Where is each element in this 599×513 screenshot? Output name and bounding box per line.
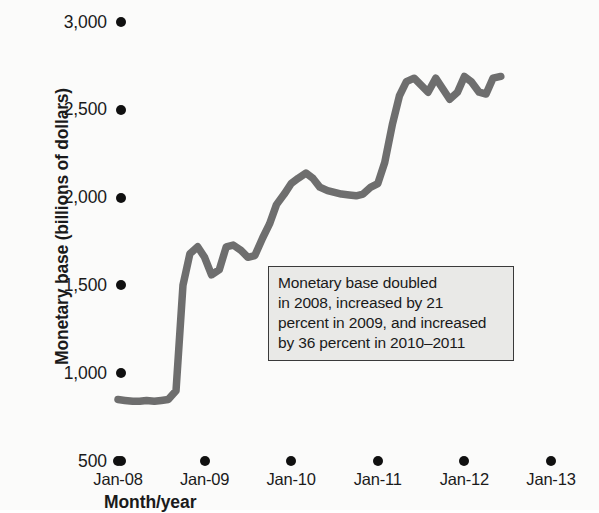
annotation-line: Monetary base doubled bbox=[278, 273, 505, 293]
x-tick-dot-Jan-10 bbox=[286, 456, 296, 466]
annotation-line: by 36 percent in 2010–2011 bbox=[278, 333, 505, 353]
x-tick-label-Jan-10: Jan-10 bbox=[267, 470, 316, 489]
x-tick-dot-Jan-13 bbox=[546, 456, 556, 466]
x-tick-dot-Jan-08 bbox=[113, 456, 123, 466]
x-tick-label-Jan-11: Jan-11 bbox=[354, 470, 402, 489]
x-tick-dot-Jan-09 bbox=[200, 456, 210, 466]
annotation-line: percent in 2009, and increased bbox=[278, 313, 505, 333]
x-tick-label-Jan-13: Jan-13 bbox=[526, 470, 575, 489]
x-tick-label-Jan-12: Jan-12 bbox=[440, 470, 489, 489]
chart-annotation-box: Monetary base doubledin 2008, increased … bbox=[268, 266, 514, 361]
x-tick-dot-Jan-12 bbox=[459, 456, 469, 466]
x-tick-label-Jan-09: Jan-09 bbox=[180, 470, 229, 489]
x-tick-dot-Jan-11 bbox=[373, 456, 383, 466]
annotation-line: in 2008, increased by 21 bbox=[278, 293, 505, 313]
x-axis-title: Month/year bbox=[104, 492, 196, 513]
x-tick-label-Jan-08: Jan-08 bbox=[93, 470, 142, 489]
